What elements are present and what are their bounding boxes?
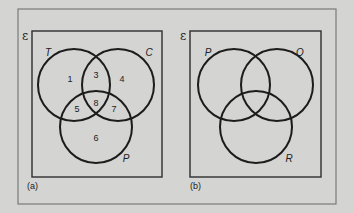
set-circle-q xyxy=(241,49,313,121)
set-circle-c xyxy=(82,49,154,121)
set-label-r: R xyxy=(285,153,292,164)
universal-set-symbol-b: ε xyxy=(180,29,186,43)
caption-b: (b) xyxy=(190,181,201,191)
region-label: 6 xyxy=(93,133,98,143)
set-label-t: T xyxy=(45,47,52,58)
venn-diagrams-figure: ε T C P 1 3 4 5 8 7 6 (a) ε P Q R (b) xyxy=(0,0,354,213)
region-label: 7 xyxy=(111,104,116,114)
set-label-p-b: P xyxy=(205,47,212,58)
venn-diagram-b: ε P Q R (b) xyxy=(180,29,321,192)
region-label: 8 xyxy=(93,98,98,108)
universal-set-symbol-a: ε xyxy=(22,29,28,43)
region-label: 4 xyxy=(119,74,124,84)
caption-a: (a) xyxy=(27,181,38,191)
set-label-c: C xyxy=(145,47,153,58)
region-label: 3 xyxy=(93,70,98,80)
set-label-p-a: P xyxy=(123,153,130,164)
set-circle-p-b xyxy=(198,49,270,121)
region-label: 1 xyxy=(67,74,72,84)
region-label: 5 xyxy=(74,104,79,114)
set-label-q: Q xyxy=(296,47,304,58)
set-circle-r xyxy=(220,91,292,163)
venn-diagram-a: ε T C P 1 3 4 5 8 7 6 (a) xyxy=(22,29,162,192)
